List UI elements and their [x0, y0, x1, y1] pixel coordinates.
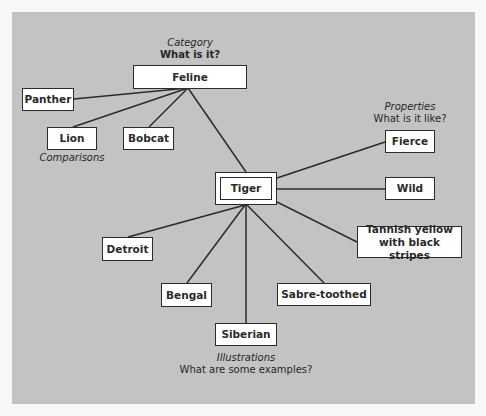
- edge-tiger-tannish: [277, 202, 357, 242]
- node-siberian: Siberian: [215, 323, 277, 346]
- properties-title: Properties: [360, 101, 460, 113]
- node-panther-label: Panther: [25, 93, 72, 106]
- node-sabre-toothed: Sabre-toothed: [277, 283, 371, 306]
- node-tannish-label-2: with black stripes: [358, 236, 461, 262]
- node-tannish-label-1: Tannish yellow: [366, 223, 453, 236]
- properties-label: Properties What is it like?: [360, 101, 460, 125]
- comparisons-label: Comparisons: [32, 152, 112, 164]
- node-wild: Wild: [385, 177, 435, 200]
- node-bobcat-label: Bobcat: [128, 132, 169, 145]
- edge-tiger-fierce: [277, 142, 385, 178]
- node-fierce-label: Fierce: [392, 135, 428, 148]
- node-tannish: Tannish yellow with black stripes: [357, 226, 462, 258]
- category-label: Category What is it?: [150, 37, 230, 61]
- node-tiger-label: Tiger: [231, 182, 262, 195]
- illustrations-question: What are some examples?: [176, 364, 316, 376]
- node-feline-label: Feline: [172, 71, 208, 84]
- illustrations-title: Illustrations: [176, 352, 316, 364]
- category-question: What is it?: [150, 49, 230, 61]
- node-lion-label: Lion: [60, 132, 85, 145]
- category-title: Category: [150, 37, 230, 49]
- illustrations-label: Illustrations What are some examples?: [176, 352, 316, 376]
- node-tiger: Tiger: [215, 172, 277, 205]
- node-lion: Lion: [47, 127, 97, 150]
- edge-tiger-detroit: [128, 205, 245, 237]
- comparisons-title: Comparisons: [32, 152, 112, 164]
- node-tiger-inner: Tiger: [220, 177, 272, 200]
- properties-question: What is it like?: [360, 113, 460, 125]
- node-feline: Feline: [133, 65, 247, 89]
- edge-tiger-sabre: [247, 205, 324, 283]
- node-sabre-toothed-label: Sabre-toothed: [281, 288, 366, 301]
- node-bengal: Bengal: [161, 283, 212, 307]
- node-fierce: Fierce: [385, 130, 435, 153]
- edge-feline-tiger: [188, 88, 246, 172]
- node-detroit: Detroit: [102, 237, 153, 261]
- edge-tiger-bengal: [187, 205, 245, 283]
- node-bengal-label: Bengal: [166, 289, 207, 302]
- node-wild-label: Wild: [397, 182, 423, 195]
- node-panther: Panther: [22, 88, 74, 111]
- node-detroit-label: Detroit: [107, 243, 149, 256]
- node-siberian-label: Siberian: [221, 328, 270, 341]
- node-bobcat: Bobcat: [123, 127, 174, 150]
